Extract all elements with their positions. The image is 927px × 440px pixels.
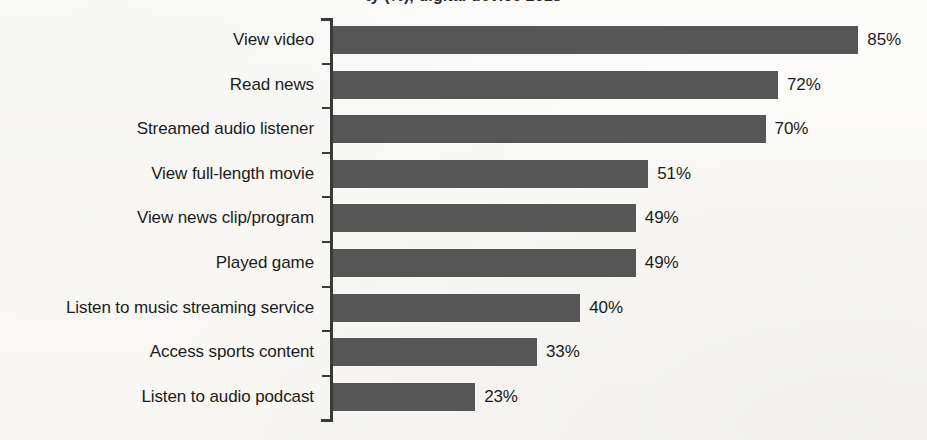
bar-chart-figure: ty (%), digital device 2018 View video85… xyxy=(0,0,927,440)
bar-category-label: View video xyxy=(0,18,314,62)
bar-row[interactable]: Read news72% xyxy=(0,63,927,107)
bar-value-label: 70% xyxy=(775,119,809,139)
bar-category-label: Listen to music streaming service xyxy=(0,286,314,330)
bar[interactable] xyxy=(333,294,580,322)
bar-value-label: 33% xyxy=(546,342,580,362)
bar-track: 49% xyxy=(333,204,636,232)
bar-category-label: Streamed audio listener xyxy=(0,107,314,151)
bar-track: 49% xyxy=(333,249,636,277)
bar-category-label: View full-length movie xyxy=(0,152,314,196)
bar-track: 40% xyxy=(333,294,580,322)
bar-category-label: Access sports content xyxy=(0,330,314,374)
bar-row[interactable]: Listen to music streaming service40% xyxy=(0,286,927,330)
bar-category-label: View news clip/program xyxy=(0,196,314,240)
bar[interactable] xyxy=(333,71,778,99)
bar-track: 70% xyxy=(333,115,766,143)
bar[interactable] xyxy=(333,26,858,54)
bar[interactable] xyxy=(333,338,537,366)
bar-value-label: 85% xyxy=(867,30,901,50)
bar-track: 51% xyxy=(333,160,648,188)
bar[interactable] xyxy=(333,160,648,188)
bar-value-label: 49% xyxy=(645,208,679,228)
bar-row[interactable]: Access sports content33% xyxy=(0,330,927,374)
bar-row[interactable]: View news clip/program49% xyxy=(0,196,927,240)
bar-value-label: 40% xyxy=(589,298,623,318)
bar[interactable] xyxy=(333,115,766,143)
bar-category-label: Read news xyxy=(0,63,314,107)
bar-value-label: 23% xyxy=(484,387,518,407)
bar-row[interactable]: View video85% xyxy=(0,18,927,62)
bar-track: 85% xyxy=(333,26,858,54)
bar-row[interactable]: Played game49% xyxy=(0,241,927,285)
bar-track: 33% xyxy=(333,338,537,366)
bar-row[interactable]: View full-length movie51% xyxy=(0,152,927,196)
bar-row[interactable]: Listen to audio podcast23% xyxy=(0,375,927,419)
bar-track: 72% xyxy=(333,71,778,99)
bar-value-label: 51% xyxy=(657,164,691,184)
bar[interactable] xyxy=(333,249,636,277)
bar-value-label: 72% xyxy=(787,75,821,95)
bar-track: 23% xyxy=(333,383,475,411)
bar-category-label: Listen to audio podcast xyxy=(0,375,314,419)
bar-category-label: Played game xyxy=(0,241,314,285)
plot-area: View video85%Read news72%Streamed audio … xyxy=(0,0,927,440)
bar[interactable] xyxy=(333,383,475,411)
axis-tick xyxy=(322,419,331,421)
bar-row[interactable]: Streamed audio listener70% xyxy=(0,107,927,151)
bar-value-label: 49% xyxy=(645,253,679,273)
bar[interactable] xyxy=(333,204,636,232)
